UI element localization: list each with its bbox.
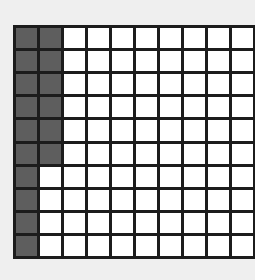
grid-cell bbox=[112, 97, 133, 117]
grid-cell bbox=[64, 236, 85, 256]
grid-cell bbox=[184, 190, 205, 210]
grid-cell bbox=[208, 28, 229, 48]
grid-cell bbox=[88, 28, 109, 48]
grid-cell bbox=[112, 28, 133, 48]
grid-cell bbox=[232, 120, 253, 140]
grid-cell bbox=[64, 144, 85, 164]
grid-cell bbox=[136, 120, 157, 140]
grid-cell bbox=[64, 51, 85, 71]
shaded-cell bbox=[40, 74, 61, 94]
grid-cell bbox=[136, 190, 157, 210]
grid-cell bbox=[208, 167, 229, 187]
grid-cell bbox=[136, 74, 157, 94]
grid-cell bbox=[208, 97, 229, 117]
shaded-cell bbox=[16, 167, 37, 187]
grid-cell bbox=[40, 167, 61, 187]
shaded-cell bbox=[16, 51, 37, 71]
grid-cell bbox=[88, 167, 109, 187]
grid-cell bbox=[136, 167, 157, 187]
grid-cell bbox=[184, 167, 205, 187]
grid-cell bbox=[112, 190, 133, 210]
grid-cell bbox=[112, 167, 133, 187]
shaded-cell bbox=[16, 213, 37, 233]
grid-cell bbox=[160, 97, 181, 117]
grid-cell bbox=[184, 213, 205, 233]
grid-cell bbox=[136, 236, 157, 256]
shaded-cell bbox=[40, 120, 61, 140]
grid-cell bbox=[184, 97, 205, 117]
grid-cell bbox=[112, 51, 133, 71]
grid-cell bbox=[64, 213, 85, 233]
grid-cell bbox=[88, 144, 109, 164]
grid-cell bbox=[136, 144, 157, 164]
grid-cell bbox=[184, 144, 205, 164]
grid-cell bbox=[160, 28, 181, 48]
grid-cell bbox=[232, 144, 253, 164]
grid-cell bbox=[40, 190, 61, 210]
grid-cell bbox=[208, 190, 229, 210]
grid-cell bbox=[184, 28, 205, 48]
grid-cell bbox=[112, 144, 133, 164]
grid-cell bbox=[136, 97, 157, 117]
grid-cell bbox=[208, 144, 229, 164]
grid-cell bbox=[184, 120, 205, 140]
grid-cell bbox=[232, 51, 253, 71]
shaded-cell bbox=[40, 144, 61, 164]
grid-cell bbox=[112, 213, 133, 233]
grid-cell bbox=[88, 236, 109, 256]
grid-cell bbox=[232, 97, 253, 117]
grid-cell bbox=[64, 74, 85, 94]
grid-cell bbox=[160, 190, 181, 210]
grid-cell bbox=[112, 74, 133, 94]
shaded-cell bbox=[16, 144, 37, 164]
grid-cell bbox=[232, 213, 253, 233]
grid-cell bbox=[160, 51, 181, 71]
grid-cell bbox=[232, 28, 253, 48]
grid-cell bbox=[160, 74, 181, 94]
grid-cell bbox=[40, 236, 61, 256]
grid-cell bbox=[88, 51, 109, 71]
grid-cell bbox=[160, 236, 181, 256]
shaded-cell bbox=[16, 236, 37, 256]
grid-cell bbox=[160, 144, 181, 164]
grid-cell bbox=[112, 120, 133, 140]
grid-cell bbox=[184, 236, 205, 256]
grid-cell bbox=[136, 28, 157, 48]
grid-cell bbox=[208, 236, 229, 256]
grid-cell bbox=[208, 213, 229, 233]
grid-cell bbox=[232, 74, 253, 94]
grid-cell bbox=[184, 51, 205, 71]
grid-cell bbox=[88, 213, 109, 233]
grid-cell bbox=[112, 236, 133, 256]
hundred-grid bbox=[13, 25, 255, 259]
grid-cell bbox=[232, 167, 253, 187]
grid-cell bbox=[208, 74, 229, 94]
grid-cell bbox=[64, 28, 85, 48]
grid-cell bbox=[64, 167, 85, 187]
shaded-cell bbox=[16, 74, 37, 94]
grid-cell bbox=[160, 213, 181, 233]
grid-cell bbox=[64, 190, 85, 210]
shaded-cell bbox=[16, 28, 37, 48]
shaded-cell bbox=[40, 51, 61, 71]
grid-cell bbox=[64, 97, 85, 117]
grid-cell bbox=[160, 120, 181, 140]
grid-cell bbox=[88, 190, 109, 210]
grid-cell bbox=[40, 213, 61, 233]
grid-cell bbox=[88, 120, 109, 140]
grid-cell bbox=[160, 167, 181, 187]
grid-cell bbox=[136, 51, 157, 71]
grid-cell bbox=[88, 97, 109, 117]
shaded-cell bbox=[16, 120, 37, 140]
shaded-cell bbox=[40, 28, 61, 48]
shaded-cell bbox=[16, 97, 37, 117]
shaded-cell bbox=[40, 97, 61, 117]
grid-cell bbox=[64, 120, 85, 140]
grid-cell bbox=[208, 120, 229, 140]
grid-cell bbox=[232, 190, 253, 210]
grid-cell bbox=[184, 74, 205, 94]
diagram-canvas bbox=[0, 0, 255, 280]
grid-cell bbox=[136, 213, 157, 233]
grid-cell bbox=[232, 236, 253, 256]
shaded-cell bbox=[16, 190, 37, 210]
